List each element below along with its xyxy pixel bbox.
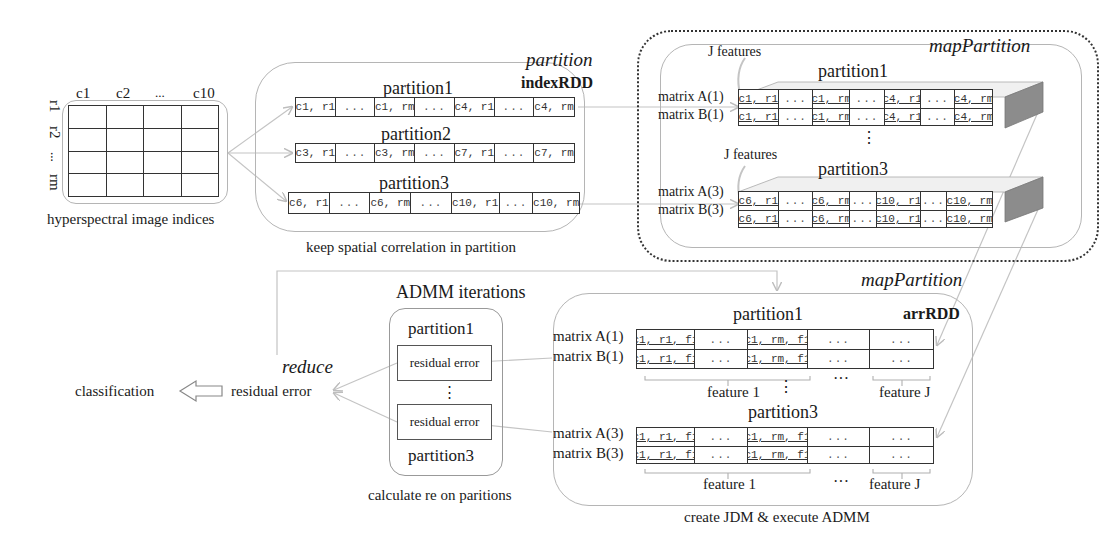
index-partition2-row: c3, r1 ... c3, rm ... c7, r1 ... c7, rm [295, 143, 575, 163]
arr-p1-matrix-a-label: matrix A(1) [553, 329, 623, 344]
index-caption: keep spatial correlation in partition [306, 240, 516, 255]
cell: c6, rm [813, 211, 850, 228]
arr-p3-matrix: c1, r1, f1 ... c1, rm, f1 ... ... c1, r1… [636, 427, 934, 464]
arr-p3-hdots: ··· [833, 474, 849, 490]
cell: c4, rm [955, 109, 992, 126]
cell: c10, r1 [877, 192, 921, 210]
j-features-label-3: J features [724, 148, 777, 162]
cell: ... [808, 447, 870, 464]
feature-p3-matrix-a-label: matrix A(3) [658, 185, 724, 199]
cell: c4, rm [534, 98, 574, 116]
cell: ... [850, 109, 885, 126]
cell: ... [415, 98, 455, 116]
reduced-residual-error: residual error [231, 384, 311, 399]
cell: c1, r1 [296, 98, 336, 116]
cell: ... [921, 192, 948, 210]
cell: c1, r1, f1 [637, 350, 695, 368]
col-label-c2: c2 [116, 86, 130, 101]
admm-vdots: ⋮ [442, 385, 457, 400]
cell: ... [779, 211, 814, 228]
row-label-rm: rm [47, 174, 62, 191]
arr-p3-matrix-a-label: matrix A(3) [553, 426, 623, 441]
index-partition1-row: c1, r1 ... c1, rm ... c4, r1 ... c4, rm [295, 97, 575, 117]
cell: ... [921, 211, 948, 228]
arr-mappartition-label: mapPartition [861, 270, 962, 289]
cell: c1, rm, f1 [748, 350, 808, 368]
index-partition3-title: partition3 [379, 174, 449, 192]
arr-vdots: ⋮ [778, 379, 794, 395]
arr-caption: create JDM & execute ADMM [684, 510, 870, 525]
row-label-dots: ... [49, 152, 62, 162]
cell: c6, r1 [289, 193, 330, 213]
feature-vdots: ⋮ [861, 130, 877, 146]
index-rdd-label: indexRDD [521, 75, 593, 91]
cell: c6, r1 [739, 211, 779, 228]
cell: ... [695, 428, 748, 446]
cell: c6, rm [813, 192, 850, 210]
row-label-r1: r1 [47, 100, 62, 113]
cell: c1, r1, f1 [637, 447, 695, 464]
arr-partition1-title: partition1 [733, 305, 803, 323]
reduce-op-label: reduce [282, 357, 333, 376]
admm-residual-error-1: residual error [397, 345, 492, 381]
admm-partition1-label: partition1 [408, 320, 474, 337]
cell: c3, rm [375, 144, 415, 162]
arr-p3-feature-1: feature 1 [703, 477, 756, 492]
arr-partition3-title: partition3 [748, 403, 818, 421]
cell: ... [870, 428, 933, 446]
cell: c1, rm [813, 90, 850, 108]
cell: c1, rm [813, 109, 850, 126]
admm-title: ADMM iterations [396, 283, 526, 301]
feature-p1-matrix-a-label: matrix A(1) [658, 90, 724, 104]
cell: ... [921, 90, 956, 108]
cell: c10, rm [533, 193, 579, 213]
feature-p1-matrix: c1, r1 ... c1, rm ... c4, r1 ... c4, rm … [738, 89, 993, 126]
index-partition3-row: c6, r1 ... c6, rm ... c10, r1 ... c10, r… [288, 192, 580, 214]
cell: ... [870, 447, 933, 464]
cell: c10, rm [947, 211, 992, 228]
feature-p3-matrix-b-label: matrix B(3) [658, 203, 724, 217]
source-caption: hyperspectral image indices [47, 212, 214, 227]
cell: c4, r1 [455, 98, 495, 116]
index-partition1-title: partition1 [383, 79, 453, 97]
cell: ... [921, 109, 956, 126]
feature-partition3-title: partition3 [818, 160, 888, 178]
col-label-dots: ... [155, 86, 165, 99]
arr-p1-feature-1: feature 1 [707, 385, 760, 400]
cell: c10, r1 [877, 211, 921, 228]
admm-residual-error-3: residual error [397, 404, 492, 440]
cell: ... [695, 330, 748, 349]
cell: c7, rm [534, 144, 574, 162]
cell: c6, r1 [739, 192, 779, 210]
cell: c1, rm, f1 [748, 428, 808, 446]
classification-label: classification [75, 384, 154, 399]
arr-p1-hdots: ··· [833, 371, 849, 387]
col-label-c1: c1 [76, 86, 90, 101]
cell: ... [336, 98, 376, 116]
arr-p1-feature-j: feature J [879, 385, 930, 400]
cell: ... [850, 90, 885, 108]
cell: c1, r1, f1 [637, 330, 695, 349]
arr-rdd-label: arrRDD [903, 306, 960, 322]
cell: ... [808, 350, 870, 368]
cell: ... [415, 144, 455, 162]
cell: ... [495, 98, 535, 116]
cell: c1, r1 [739, 109, 779, 126]
cell: ... [695, 350, 748, 368]
feature-p3-matrix: c6, r1 ... c6, rm ... c10, r1 ... c10, r… [738, 191, 993, 228]
cell: ... [779, 90, 814, 108]
cell: c1, rm, f1 [748, 447, 808, 464]
cell: c6, rm [370, 193, 411, 213]
cell: ... [779, 192, 814, 210]
cell: ... [695, 447, 748, 464]
cell: c4, r1 [885, 90, 921, 108]
index-partition2-title: partition2 [381, 125, 451, 143]
cell: ... [336, 144, 376, 162]
cell: ... [808, 330, 870, 349]
cell: ... [870, 330, 933, 349]
cell: c4, r1 [885, 109, 921, 126]
feature-p1-matrix-b-label: matrix B(1) [658, 108, 724, 122]
col-label-c10: c10 [193, 86, 215, 101]
index-grid [68, 105, 219, 197]
cell: c1, rm [375, 98, 415, 116]
